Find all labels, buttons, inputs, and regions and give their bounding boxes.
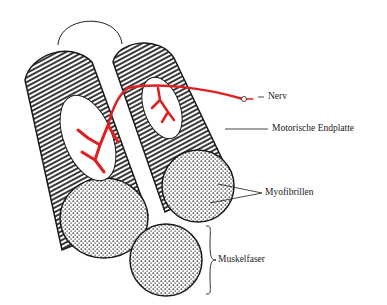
muscle-fiber-diagram: [0, 0, 387, 305]
label-nerve: Nerv: [268, 91, 287, 101]
label-myofibrils: Myofibrillen: [265, 187, 314, 197]
label-muscle-fiber: Muskelfaser: [218, 254, 265, 264]
muscle-fiber-cross-section: [130, 224, 202, 296]
muscle-fiber-brace: [206, 226, 216, 294]
label-motor-end-plate: Motorische Endplatte: [272, 123, 354, 133]
connecting-fiber-line: [58, 21, 122, 45]
